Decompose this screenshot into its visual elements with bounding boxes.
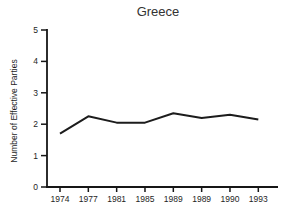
y-tick-label: 3 [33,88,38,98]
y-tick-label: 2 [33,119,38,129]
chart-title: Greece [137,4,180,19]
x-tick-label: 1981 [107,194,126,204]
line-chart-svg: Greece Number of Effective Parties 01234… [0,0,288,218]
x-tick-label: 1993 [249,194,268,204]
x-tick-label: 1989 [192,194,211,204]
x-tick-label: 1990 [221,194,240,204]
y-tick-label: 0 [33,182,38,192]
figure: Greece Number of Effective Parties 01234… [0,0,288,218]
x-tick-label: 1985 [136,194,155,204]
y-tick-label: 4 [33,56,38,66]
x-tick-label: 1977 [79,194,98,204]
x-tick-label: 1989 [164,194,183,204]
y-axis-title: Number of Effective Parties [9,59,19,162]
y-tick-label: 1 [33,151,38,161]
data-line [60,113,258,133]
data-series [60,113,258,133]
axes: 01234519741977198119851989198919901993 [33,25,278,204]
x-tick-label: 1974 [51,194,70,204]
y-tick-label: 5 [33,25,38,35]
